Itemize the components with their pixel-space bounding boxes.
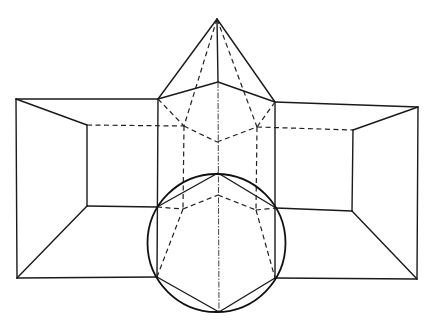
geometric-drawing	[0, 0, 434, 325]
hidden-edge	[257, 102, 275, 127]
hidden-edge	[217, 127, 257, 142]
hidden-edge	[217, 19, 257, 127]
hidden-edge	[184, 126, 217, 142]
hidden-edge	[157, 207, 183, 209]
visible-edge	[16, 99, 17, 278]
hidden-edge	[87, 125, 184, 126]
front-edge-axis	[218, 82, 219, 312]
hidden-edge	[157, 209, 183, 277]
visible-edge	[417, 107, 418, 279]
visible-edge	[17, 277, 157, 278]
visible-edge	[218, 173, 276, 208]
hidden-edges	[87, 19, 353, 278]
hidden-edge	[256, 210, 275, 278]
visible-edge	[275, 278, 417, 279]
center-axis	[218, 82, 219, 312]
hidden-edge	[183, 126, 184, 209]
visible-edge	[217, 19, 218, 82]
visible-edge	[157, 173, 218, 207]
visible-edge	[87, 206, 157, 207]
hidden-edge	[184, 19, 217, 126]
visible-edges	[16, 19, 418, 312]
hidden-edge	[256, 208, 276, 210]
visible-edge	[217, 19, 275, 102]
visible-edge	[219, 278, 275, 312]
visible-edge	[275, 102, 418, 107]
visible-edge	[352, 211, 417, 279]
visible-edge	[158, 19, 217, 99]
hidden-edge	[256, 127, 257, 210]
visible-edge	[16, 99, 87, 125]
visible-edge	[353, 107, 418, 130]
hidden-edge	[183, 195, 218, 209]
visible-edge	[158, 82, 218, 99]
hidden-edge	[158, 99, 184, 126]
prism-through-frame-diagram	[0, 0, 434, 325]
hidden-edge	[218, 195, 256, 210]
hidden-edge	[257, 127, 353, 130]
visible-edge	[276, 208, 352, 211]
visible-edge	[352, 130, 353, 211]
visible-edge	[17, 206, 87, 278]
